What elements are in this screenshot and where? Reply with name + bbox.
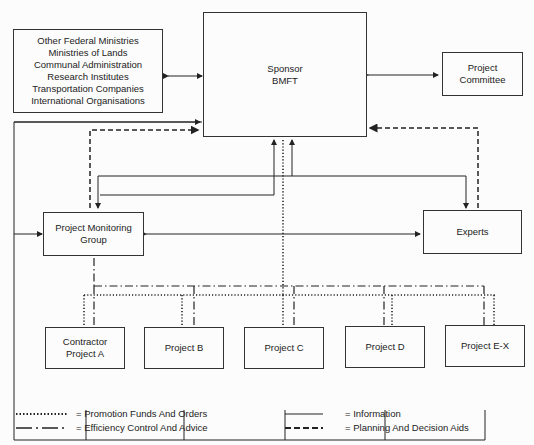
experts-box: Experts	[423, 210, 522, 254]
project-a-box: Contractor Project A	[45, 327, 125, 369]
stakeholders-box: Other Federal Ministries Ministries of L…	[13, 29, 163, 113]
monitoring-box: Project Monitoring Group	[43, 212, 144, 256]
committee-box: Project Committee	[442, 52, 523, 96]
project-c-box: Project C	[244, 327, 324, 369]
project-ex-box: Project E-X	[445, 325, 525, 367]
solid-line-icon	[283, 410, 339, 418]
dash-dot-line-icon	[14, 424, 70, 432]
sponsor-box: Sponsor BMFT	[203, 12, 367, 137]
project-b-box: Project B	[144, 327, 224, 369]
project-d-box: Project D	[345, 326, 425, 368]
dotted-line-icon	[14, 410, 70, 418]
dashed-line-icon	[283, 424, 339, 432]
legend-planning-aids: = Planning And Decision Aids	[283, 422, 469, 433]
legend-information: = Information	[283, 408, 401, 419]
legend-efficiency-control: = Efficiency Control And Advice	[14, 422, 208, 433]
legend-promotion-funds: = Promotion Funds And Orders	[14, 408, 207, 419]
